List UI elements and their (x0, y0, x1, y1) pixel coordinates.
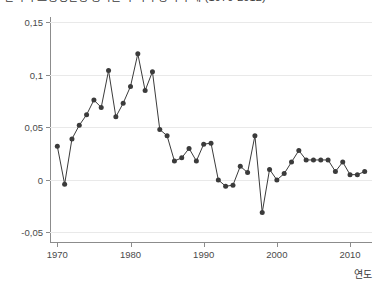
data-point (69, 136, 74, 141)
x-tick-label: 1970 (47, 249, 68, 260)
data-point (209, 141, 214, 146)
data-point (311, 157, 316, 162)
x-tick-mark (57, 243, 58, 247)
y-tick-label: 0,05 (25, 122, 44, 133)
y-tick-label: 0,15 (25, 17, 44, 28)
data-point (84, 112, 89, 117)
data-point (106, 68, 111, 73)
x-tick-mark (277, 243, 278, 247)
y-tick-label: -0,05 (21, 227, 43, 238)
x-tick-label: 2000 (266, 249, 287, 260)
data-point (296, 148, 301, 153)
data-point (289, 160, 294, 165)
data-point (274, 177, 279, 182)
x-tick-mark (131, 243, 132, 247)
data-point (304, 157, 309, 162)
chart-figure: 한국의 노동생산성 증가율 추이와 장기 추세 (1970-2012) 0,15… (0, 0, 380, 286)
data-point (267, 167, 272, 172)
x-tick-mark (204, 243, 205, 247)
data-point (238, 164, 243, 169)
data-point (326, 157, 331, 162)
x-tick-mark (350, 243, 351, 247)
data-series (50, 17, 372, 243)
data-point (62, 182, 67, 187)
data-point (157, 127, 162, 132)
data-point (348, 172, 353, 177)
data-point (172, 159, 177, 164)
data-point (318, 157, 323, 162)
data-point (194, 159, 199, 164)
data-point (121, 101, 126, 106)
data-point (91, 98, 96, 103)
data-point (355, 172, 360, 177)
plot-area: 0,150,10,050-0,05 19701980199020002010 (50, 17, 372, 243)
data-point (216, 177, 221, 182)
data-point (230, 183, 235, 188)
y-tick-label: 0 (38, 174, 43, 185)
data-point (260, 210, 265, 215)
data-point (252, 133, 257, 138)
data-point (113, 114, 118, 119)
series-line (57, 54, 364, 213)
data-point (245, 170, 250, 175)
data-point (187, 146, 192, 151)
x-tick-label: 1990 (193, 249, 214, 260)
data-point (201, 142, 206, 147)
y-tick-label: 0,1 (30, 69, 43, 80)
data-point (128, 84, 133, 89)
x-axis-label: 연도 (354, 266, 372, 281)
data-point (99, 105, 104, 110)
data-point (143, 88, 148, 93)
x-tick-label: 2010 (339, 249, 360, 260)
data-point (223, 184, 228, 189)
data-point (340, 160, 345, 165)
data-point (333, 169, 338, 174)
data-point (77, 123, 82, 128)
data-point (179, 155, 184, 160)
data-point (150, 69, 155, 74)
data-point (282, 171, 287, 176)
data-point (135, 51, 140, 56)
data-point (165, 133, 170, 138)
data-point (362, 169, 367, 174)
data-point (55, 144, 60, 149)
x-tick-label: 1980 (120, 249, 141, 260)
chart-title: 한국의 노동생산성 증가율 추이와 장기 추세 (1970-2012) (4, 0, 376, 5)
